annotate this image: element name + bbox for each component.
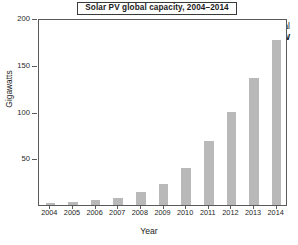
bar-2009	[159, 184, 169, 205]
bar-2007	[113, 198, 123, 205]
bar-2005	[68, 202, 78, 205]
plot-area	[38, 19, 287, 206]
bar-2004	[46, 203, 56, 205]
bar-2010	[181, 168, 191, 205]
x-axis-title: Year	[0, 226, 298, 236]
y-tick-mark-50	[32, 159, 37, 160]
y-tick-label-50: 50	[0, 155, 30, 163]
y-tick-label-200: 200	[0, 15, 30, 23]
bars-layer	[39, 20, 286, 205]
bar-2008	[136, 192, 146, 205]
bar-2014	[272, 40, 282, 205]
bar-2011	[204, 141, 214, 205]
chart-title-box: Solar PV global capacity, 2004–2014	[77, 2, 237, 15]
chart-title: Solar PV global capacity, 2004–2014	[85, 4, 229, 12]
y-tick-mark-150	[32, 66, 37, 67]
y-tick-mark-200	[32, 19, 37, 20]
bar-2006	[91, 200, 101, 205]
y-tick-mark-100	[32, 113, 37, 114]
x-tick-label-2014: 2014	[260, 209, 292, 216]
bar-2013	[249, 78, 259, 205]
bar-2012	[227, 112, 237, 205]
y-axis-title: Gigawatts	[4, 49, 14, 129]
chart-figure: Solar PV global capacity, 2004–2014 Worl…	[0, 0, 298, 245]
